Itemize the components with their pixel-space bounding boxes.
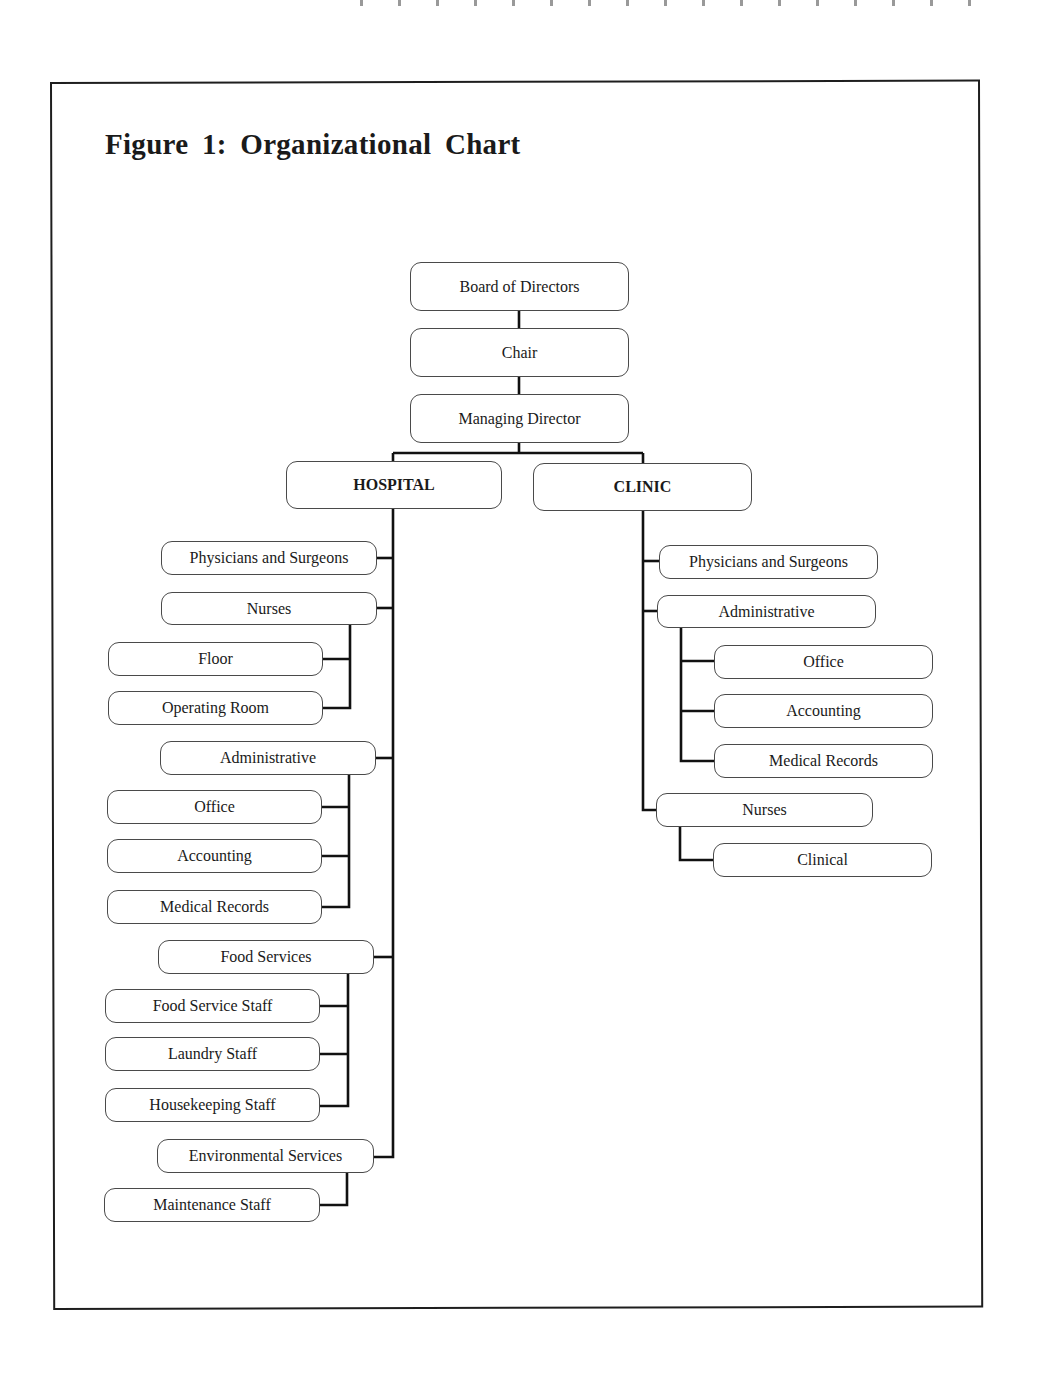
node-clinic-admin-accounting: Accounting — [714, 694, 933, 728]
node-managing-director: Managing Director — [410, 394, 629, 443]
node-clinic-nurses-clinical: Clinical — [713, 843, 932, 877]
node-hospital-housekeeping-staff: Housekeeping Staff — [105, 1088, 320, 1122]
node-hospital-food-service-staff: Food Service Staff — [105, 989, 320, 1023]
node-clinic: CLINIC — [533, 463, 752, 511]
node-clinic-admin-medical-records: Medical Records — [714, 744, 933, 778]
node-clinic-nurses: Nurses — [656, 793, 873, 827]
node-board-of-directors: Board of Directors — [410, 262, 629, 311]
node-hospital-admin-medical-records: Medical Records — [107, 890, 322, 924]
node-hospital-maintenance-staff: Maintenance Staff — [104, 1188, 320, 1222]
node-hospital-nurses-floor: Floor — [108, 642, 323, 676]
node-clinic-administrative: Administrative — [657, 595, 876, 628]
node-hospital-admin-accounting: Accounting — [107, 839, 322, 873]
node-hospital-environmental-services: Environmental Services — [157, 1139, 374, 1173]
node-clinic-admin-office: Office — [714, 645, 933, 679]
node-hospital-laundry-staff: Laundry Staff — [105, 1037, 320, 1071]
node-hospital-physicians: Physicians and Surgeons — [161, 541, 377, 575]
node-hospital: HOSPITAL — [286, 461, 502, 509]
node-hospital-nurses: Nurses — [161, 592, 377, 625]
node-hospital-food-services: Food Services — [158, 940, 374, 974]
node-hospital-nurses-operating-room: Operating Room — [108, 691, 323, 725]
node-chair: Chair — [410, 328, 629, 377]
node-hospital-administrative: Administrative — [160, 741, 376, 775]
node-hospital-admin-office: Office — [107, 790, 322, 824]
node-clinic-physicians: Physicians and Surgeons — [659, 545, 878, 579]
